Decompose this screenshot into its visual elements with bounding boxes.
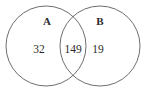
region-value-b-only: 19 (92, 43, 104, 55)
region-value-a-only: 32 (33, 43, 45, 55)
set-label-a: A (43, 15, 51, 27)
venn-diagram: A B 32 149 19 (0, 0, 146, 93)
venn-diagram-canvas: A B 32 149 19 (0, 0, 146, 93)
set-label-b: B (96, 15, 104, 27)
region-value-intersection: 149 (64, 43, 82, 55)
